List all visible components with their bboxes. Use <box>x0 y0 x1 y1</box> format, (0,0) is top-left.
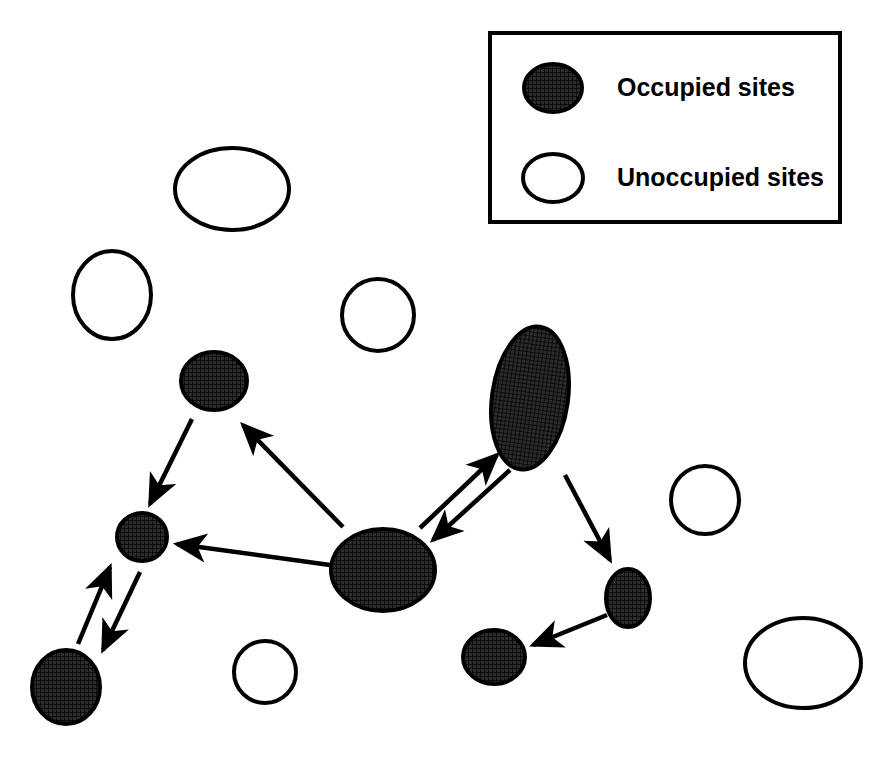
site-unoccupied-upper-middle[interactable] <box>342 279 414 351</box>
site-unoccupied-upper-left[interactable] <box>73 251 151 339</box>
legend-label-unoccupied: Unoccupied sites <box>617 163 824 191</box>
site-unoccupied-lower-right[interactable] <box>745 618 861 708</box>
site-occupied-upper-left[interactable] <box>181 352 247 410</box>
legend-swatch-unoccupied-icon <box>523 154 583 202</box>
legend-label-occupied: Occupied sites <box>617 73 795 101</box>
site-occupied-center-large[interactable] <box>331 529 435 611</box>
site-unoccupied-right[interactable] <box>671 466 739 534</box>
site-occupied-small-lower-right[interactable] <box>606 569 650 627</box>
legend: Occupied sites Unoccupied sites <box>490 33 840 222</box>
site-occupied-bottom-left[interactable] <box>32 650 100 724</box>
site-occupied-bottom-middle[interactable] <box>463 630 525 684</box>
site-unoccupied-top[interactable] <box>175 148 289 230</box>
legend-swatch-occupied-icon <box>524 64 582 112</box>
site-unoccupied-lower-left[interactable] <box>234 641 296 703</box>
figure-root: Occupied sites Unoccupied sites <box>0 0 884 759</box>
diagram-canvas: Occupied sites Unoccupied sites <box>0 0 884 759</box>
site-occupied-small-left[interactable] <box>117 513 167 561</box>
